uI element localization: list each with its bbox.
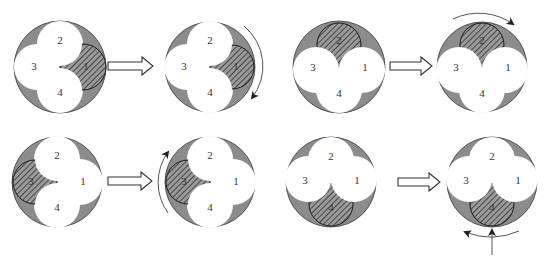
lobe-3: [285, 156, 331, 202]
label-3: 3: [181, 60, 187, 72]
label-4: 4: [479, 87, 485, 99]
label-2: 2: [328, 150, 334, 162]
transition-arrow-1: [108, 57, 153, 75]
label-3: 3: [302, 174, 308, 186]
label-4: 4: [57, 86, 63, 98]
panel-7: 2 3 4 1: [285, 137, 377, 227]
transition-arrow-3: [108, 172, 152, 190]
transition-arrow-2: [390, 57, 432, 75]
label-3: 3: [453, 61, 459, 73]
label-1: 1: [362, 61, 368, 73]
label-4: 4: [207, 86, 213, 98]
transition-arrow-4: [398, 173, 440, 191]
label-3: 3: [463, 174, 469, 186]
label-3: 3: [28, 175, 34, 187]
label-2: 2: [207, 34, 213, 46]
label-2: 2: [489, 150, 495, 162]
panel-5: 2 3 4 1: [12, 136, 103, 228]
label-1: 1: [233, 60, 239, 72]
label-2: 2: [479, 34, 485, 46]
label-4: 4: [336, 87, 342, 99]
panel-8: 2 3 4 1: [446, 137, 538, 227]
panel-1: 2 3 4 1: [14, 21, 106, 113]
panel-6: 2 3 4 1: [165, 136, 256, 228]
lobe-3: [446, 156, 492, 202]
label-3: 3: [31, 60, 37, 72]
label-2: 2: [57, 34, 63, 46]
label-4: 4: [489, 201, 495, 213]
label-1: 1: [505, 61, 511, 73]
panel-2: 2 3 4 1: [164, 21, 255, 113]
label-3: 3: [181, 175, 187, 187]
rotor-sequence-diagram: 2 3 4 1 2 3 4 1 2 3 4 1: [0, 0, 547, 260]
label-3: 3: [310, 61, 316, 73]
label-1: 1: [83, 60, 89, 72]
label-4: 4: [207, 201, 213, 213]
label-4: 4: [54, 201, 60, 213]
panel-3: 2 3 4 1: [293, 21, 385, 113]
label-2: 2: [54, 149, 60, 161]
label-1: 1: [354, 174, 360, 186]
panel-4: 2 3 4 1: [436, 22, 528, 113]
label-2: 2: [336, 34, 342, 46]
label-1: 1: [515, 174, 521, 186]
label-2: 2: [207, 149, 213, 161]
label-1: 1: [80, 175, 86, 187]
label-4: 4: [328, 201, 334, 213]
label-1: 1: [233, 175, 239, 187]
